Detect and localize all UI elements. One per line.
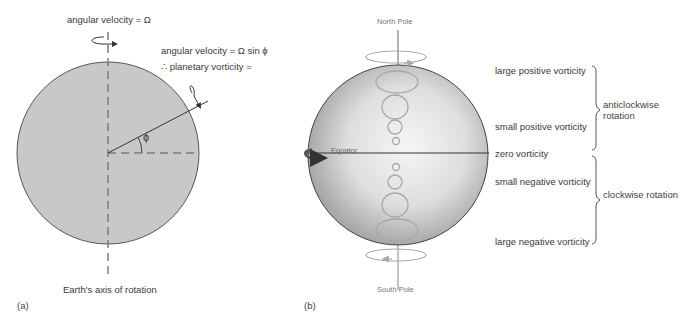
clockwise-brace (592, 156, 600, 244)
panel-b-label: (b) (304, 300, 316, 311)
anticlockwise-brace (592, 66, 600, 150)
axis-rotation-arrow-icon (92, 37, 116, 44)
large-positive-vorticity-label: large positive vorticity (495, 65, 586, 76)
tilted-angular-velocity-label: angular velocity = Ω sin ϕ (161, 45, 268, 56)
south-pole-label: South Pole (377, 284, 414, 295)
panel-a-label: (a) (17, 300, 29, 311)
anticlockwise-rotation-label: anticlockwise rotation (603, 99, 683, 121)
south-pole-rotation-icon (366, 249, 426, 261)
north-pole-label: North Pole (377, 16, 412, 27)
equator-label: Equator (331, 145, 357, 156)
earth-axis-label: Earth's axis of rotation (63, 284, 157, 295)
small-positive-vorticity-label: small positive vorticity (495, 121, 587, 132)
latitude-angle-symbol: ϕ (143, 132, 149, 143)
tilted-rotation-arrow-icon (190, 86, 200, 107)
small-negative-vorticity-label: small negative vorticity (495, 176, 591, 187)
planetary-vorticity-label: ∴ planetary vorticity = (161, 61, 252, 72)
clockwise-rotation-label: clockwise rotation (603, 189, 683, 200)
north-pole-rotation-icon (366, 51, 426, 63)
zero-vorticity-label: zero vorticity (495, 148, 548, 159)
axis-angular-velocity-label: angular velocity = Ω (67, 14, 151, 25)
large-negative-vorticity-label: large negative vorticity (495, 236, 590, 247)
